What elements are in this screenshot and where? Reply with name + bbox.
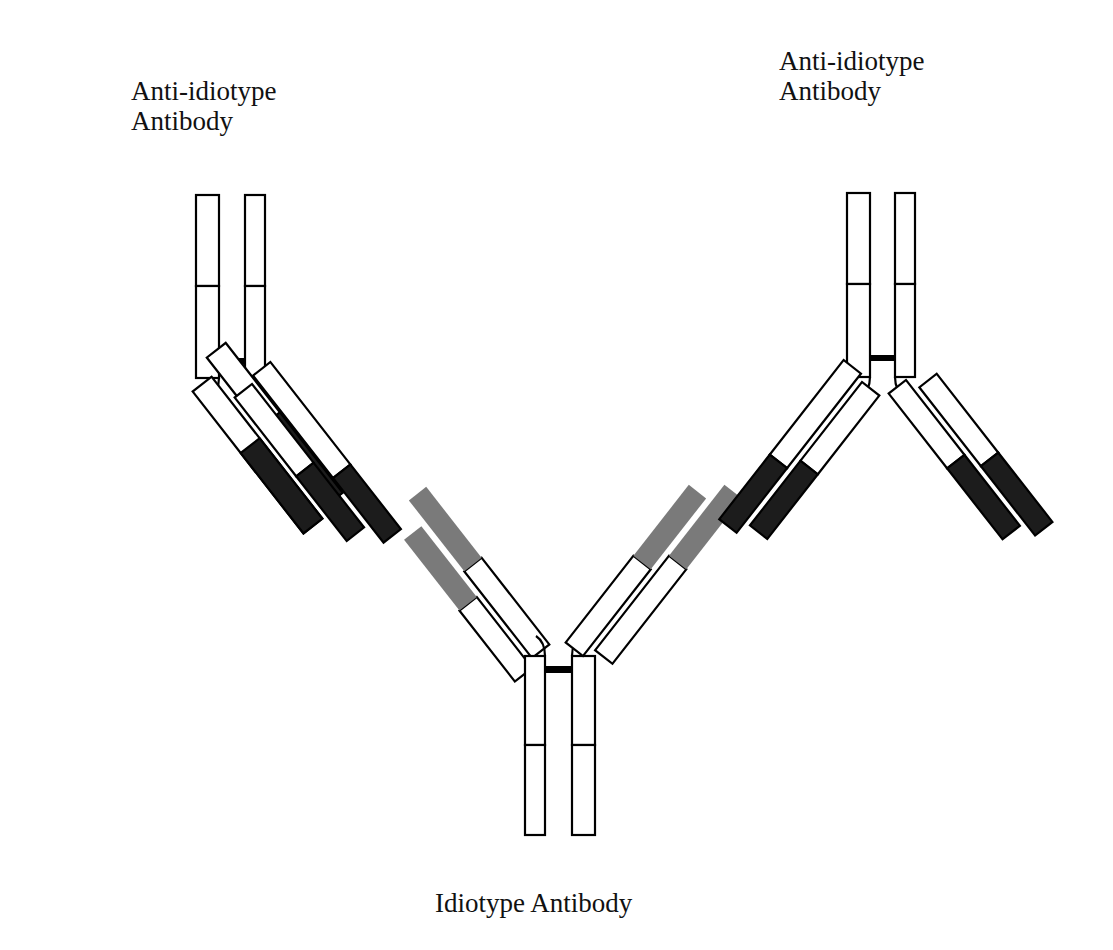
antibody-diagram [0,0,1113,950]
idiotype-antibody-center [525,634,595,835]
anti-idiotype-antibody-label-left: Anti-idiotype Antibody [131,76,276,136]
label-line-2: Antibody [779,76,924,106]
idiotype-antibody-left-arm [387,487,554,682]
anti-idiotype-antibody-label-right: Anti-idiotype Antibody [779,46,924,106]
label-line-2: Antibody [131,106,276,136]
heavy-chain-stem-right [245,195,265,378]
anti-idiotype-right-binding-arm [719,360,883,550]
anti-idiotype-antibody-right [847,193,915,400]
label-line-1: Anti-idiotype [131,76,276,106]
disulfide-hinge-bar [545,666,572,673]
disulfide-hinge-bar [870,355,895,361]
idiotype-antibody-right-arm [566,468,742,674]
idiotype-antibody-label: Idiotype Antibody [435,888,632,918]
heavy-chain-stem-right [572,656,595,835]
label-line-1: Anti-idiotype [779,46,924,76]
anti-idiotype-right-free-arm [889,363,1053,553]
heavy-chain-stem-left [525,656,545,835]
heavy-chain-stem-right [895,193,915,377]
heavy-chain-stem-left [847,193,870,377]
